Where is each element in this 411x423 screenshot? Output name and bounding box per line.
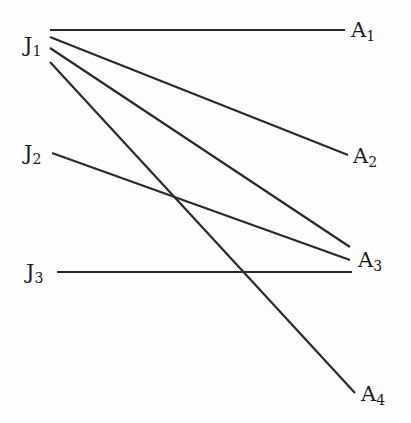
node-a4-label: A4 [361, 384, 385, 407]
node-j3-label: J3 [26, 262, 43, 285]
node-j1-label: J1 [24, 35, 41, 58]
bipartite-diagram: J1 J2 J3 A1 A2 A3 A4 [0, 0, 411, 423]
node-j2-label: J2 [24, 143, 41, 166]
edge-j1-a2 [50, 37, 348, 155]
edge-layer [0, 0, 411, 423]
edge-j1-a4 [50, 62, 355, 393]
edge-j1-a3 [50, 48, 350, 247]
node-a3-label: A3 [358, 250, 382, 273]
edge-j2-a3 [52, 153, 350, 260]
node-a1-label: A1 [351, 20, 375, 43]
node-a2-label: A2 [353, 146, 377, 169]
